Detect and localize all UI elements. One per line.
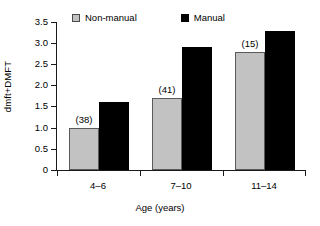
- bar-annotation-7-10: (41): [147, 84, 187, 95]
- bar-non-manual-4-6: [69, 128, 99, 170]
- y-axis-label-3: 1.5: [35, 101, 48, 111]
- y-axis-label-4: 2.0: [35, 80, 48, 90]
- y-axis-label-5: 2.5: [35, 59, 48, 69]
- plot-area: (38) (41) (15): [57, 22, 305, 170]
- x-axis-category-label-0: 4–6: [68, 180, 128, 191]
- bar-annotation-4-6: (38): [64, 114, 104, 125]
- y-axis-tick-6: [51, 43, 56, 44]
- x-axis-tick-2: [223, 171, 224, 176]
- bar-non-manual-11-14: [235, 52, 265, 170]
- x-axis-tick-end: [305, 171, 306, 176]
- x-axis-tick-1: [140, 171, 141, 176]
- y-axis-label-7: 3.5: [35, 17, 48, 27]
- x-axis-title: Age (years): [0, 202, 320, 213]
- legend-swatch-manual-icon: [181, 14, 189, 22]
- x-axis-tick-start: [57, 171, 58, 176]
- bar-non-manual-7-10: [152, 98, 182, 170]
- y-axis-label-6: 3.0: [35, 38, 48, 48]
- bar-annotation-11-14: (15): [230, 38, 270, 49]
- x-axis-category-label-2: 11–14: [234, 180, 294, 191]
- x-axis-category-label-1: 7–10: [151, 180, 211, 191]
- bar-manual-4-6: [99, 102, 129, 170]
- y-axis-tick-5: [51, 64, 56, 65]
- y-axis-tick-3: [51, 106, 56, 107]
- y-axis-tick-7: [51, 22, 56, 23]
- y-axis-tick-4: [51, 85, 56, 86]
- y-axis-label-0: 0: [43, 165, 48, 175]
- bar-manual-7-10: [182, 47, 212, 170]
- y-axis-tick-0: [51, 170, 56, 171]
- y-axis-tick-2: [51, 128, 56, 129]
- y-axis-title: dmft+DMFT: [0, 0, 16, 172]
- y-axis-tick-1: [51, 149, 56, 150]
- bar-manual-11-14: [265, 31, 295, 171]
- y-axis-label-2: 1.0: [35, 123, 48, 133]
- x-axis-line: [56, 170, 306, 171]
- bar-chart-figure: Non-manual Manual dmft+DMFT 0 0.5 1.0 1.…: [0, 0, 320, 226]
- y-axis-label-1: 0.5: [35, 144, 48, 154]
- y-axis-title-text: dmft+DMFT: [3, 60, 14, 111]
- legend-swatch-non-manual-icon: [72, 14, 80, 22]
